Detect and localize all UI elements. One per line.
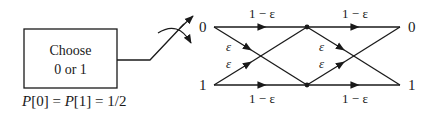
stage1-bottom-prob: 1 − ε [249,91,275,106]
output-label-1: 1 [408,77,416,93]
source-box-line1: Choose [50,43,92,58]
input-label-1: 1 [199,77,207,93]
switch-icon [117,16,193,60]
prior-mid: [0] = [31,93,64,109]
source-box-line2: 0 or 1 [54,62,87,77]
diagram-svg: Choose 0 or 1 P[0] = P[1] = 1/2 0 1 0 1 [0,0,436,117]
stage1-cross-down-prob: ε [226,39,232,54]
prior-p0: P [21,93,31,109]
stage1-top-prob: 1 − ε [249,6,275,21]
stage2-top-prob: 1 − ε [342,6,368,21]
prior-end: [1] = 1/2 [74,93,127,109]
output-label-0: 0 [408,19,416,35]
stage2-cross-up-prob: ε [319,56,325,71]
bsc-cascade-diagram: Choose 0 or 1 P[0] = P[1] = 1/2 0 1 0 1 [0,0,436,117]
input-label-0: 0 [199,19,207,35]
prior-p1: P [64,93,74,109]
junction-dot-top [305,25,310,30]
junction-dot-bottom [305,83,310,88]
source-box [24,29,117,88]
prior-probability-label: P[0] = P[1] = 1/2 [21,93,126,109]
stage1-cross-up-prob: ε [226,56,232,71]
stage2-cross-down-prob: ε [319,39,325,54]
stage2-bottom-prob: 1 − ε [342,91,368,106]
